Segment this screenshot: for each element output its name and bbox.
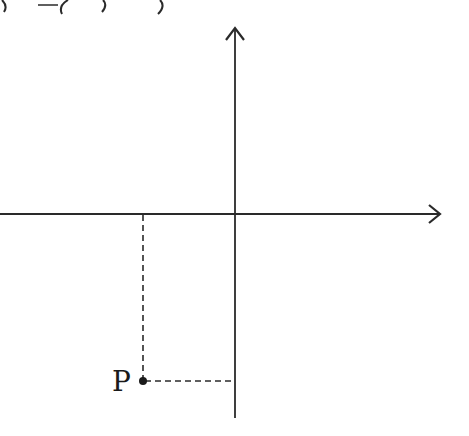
point-p-dot bbox=[139, 377, 147, 385]
y-axis bbox=[226, 28, 244, 418]
header-partial-text bbox=[2, 0, 163, 14]
coordinate-diagram: P bbox=[0, 0, 469, 436]
point-p-label: P bbox=[112, 365, 131, 398]
x-axis bbox=[0, 205, 440, 223]
